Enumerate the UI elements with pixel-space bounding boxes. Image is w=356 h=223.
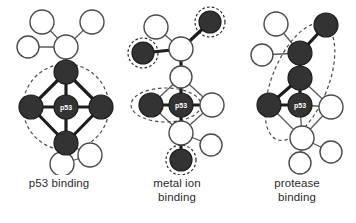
node-open bbox=[170, 66, 192, 88]
node-open bbox=[80, 10, 104, 34]
node-open bbox=[30, 10, 54, 34]
node-open bbox=[144, 15, 168, 39]
node-open bbox=[78, 143, 102, 167]
node-filled bbox=[288, 66, 312, 90]
caption-line-2: binding bbox=[238, 190, 356, 204]
panel-protease-binding: p53 protease binding bbox=[238, 0, 356, 223]
node-hub bbox=[54, 35, 78, 59]
p53-label: p53 bbox=[175, 102, 187, 110]
node-open bbox=[319, 95, 343, 119]
node-filled bbox=[139, 93, 163, 117]
node-filled bbox=[89, 95, 113, 119]
node-open bbox=[264, 12, 288, 36]
caption-line-1: protease bbox=[274, 177, 320, 189]
node-hub bbox=[288, 41, 312, 65]
network-graph-protease-binding: p53 bbox=[238, 0, 356, 175]
caption-line-1: metal ion bbox=[153, 177, 201, 189]
node-open bbox=[200, 134, 222, 156]
node-open bbox=[289, 152, 311, 174]
node-filled bbox=[19, 95, 43, 119]
network-graph-metal-ion-binding: p53 bbox=[118, 0, 236, 175]
node-filled bbox=[132, 42, 154, 64]
node-open bbox=[251, 44, 273, 66]
node-filled bbox=[199, 11, 221, 33]
figure-root: p53 p53 binding bbox=[0, 0, 356, 223]
node-filled bbox=[170, 149, 192, 171]
node-open bbox=[290, 126, 314, 150]
p53-label: p53 bbox=[294, 102, 306, 110]
node-filled bbox=[314, 13, 338, 37]
p53-label: p53 bbox=[60, 104, 72, 112]
node-open bbox=[50, 152, 74, 175]
panel-caption-metal-ion-binding: metal ion binding bbox=[118, 176, 236, 204]
node-open bbox=[320, 141, 342, 163]
node-open bbox=[17, 36, 39, 58]
node-filled bbox=[257, 93, 281, 117]
panel-caption-p53-binding: p53 binding bbox=[0, 176, 118, 190]
panel-metal-ion-binding: p53 metal ion binding bbox=[118, 0, 236, 223]
node-filled bbox=[54, 60, 78, 84]
panel-caption-protease-binding: protease binding bbox=[238, 176, 356, 204]
node-filled bbox=[54, 131, 78, 155]
network-graph-p53-binding: p53 bbox=[0, 0, 118, 175]
node-hub bbox=[169, 37, 193, 61]
caption-line-1: p53 binding bbox=[29, 177, 90, 189]
panel-p53-binding: p53 p53 binding bbox=[0, 0, 118, 223]
node-open bbox=[200, 93, 224, 117]
node-open bbox=[169, 121, 193, 145]
caption-line-2: binding bbox=[118, 190, 236, 204]
